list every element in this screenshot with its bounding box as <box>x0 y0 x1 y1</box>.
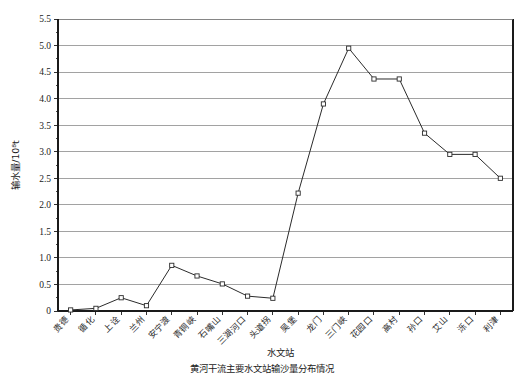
line-chart: 00.51.01.52.02.53.03.54.04.55.05.5贵德循化上诠… <box>0 0 525 374</box>
data-point-marker <box>220 282 224 286</box>
y-tick-label: 0.5 <box>39 280 51 290</box>
data-point-marker <box>372 77 376 81</box>
y-tick-label: 2.5 <box>39 174 51 184</box>
x-tick-label: 高村 <box>379 314 400 335</box>
x-tick-label: 贵德 <box>51 314 72 335</box>
data-point-marker <box>473 152 477 156</box>
y-tick-label: 1.0 <box>39 253 51 263</box>
plot-background <box>58 19 513 311</box>
x-tick-label: 青铜峡 <box>171 314 198 341</box>
y-tick-label: 1.5 <box>39 227 51 237</box>
data-point-marker <box>94 306 98 310</box>
data-point-marker <box>498 176 502 180</box>
x-tick-label: 循化 <box>76 314 97 335</box>
data-point-marker <box>347 46 351 50</box>
y-axis-title: 输水量/10⁸t <box>10 140 21 190</box>
chart-container: 00.51.01.52.02.53.03.54.04.55.05.5贵德循化上诠… <box>0 0 525 374</box>
data-point-marker <box>170 263 174 267</box>
data-point-marker <box>144 304 148 308</box>
data-point-marker <box>271 296 275 300</box>
data-point-marker <box>119 296 123 300</box>
x-tick-label: 吴堡 <box>279 314 299 334</box>
data-point-marker <box>245 294 249 298</box>
x-tick-label: 安宁渡 <box>145 314 172 341</box>
y-tick-label: 4.0 <box>39 94 51 104</box>
y-tick-label: 2.0 <box>39 200 51 210</box>
data-point-marker <box>69 308 73 312</box>
y-tick-label: 0 <box>46 306 51 316</box>
y-tick-label: 4.5 <box>39 67 51 77</box>
caption-text: 黄河干流主要水文站输沙量分布情况 <box>190 363 335 374</box>
x-tick-label: 头道拐 <box>246 314 273 341</box>
x-tick-label: 泺口 <box>455 314 476 335</box>
data-point-marker <box>448 152 452 156</box>
data-point-marker <box>296 191 300 195</box>
figure-caption-clipped: 黄河干流主要水文站输沙量分布情况 <box>0 363 525 374</box>
x-tick-label: 孙口 <box>404 314 425 335</box>
x-tick-label: 兰州 <box>126 314 147 335</box>
data-point-marker <box>397 77 401 81</box>
y-tick-label: 5.0 <box>39 41 51 51</box>
x-tick-label: 艾山 <box>430 314 450 334</box>
x-tick-label: 利津 <box>480 314 501 335</box>
y-tick-label: 5.5 <box>39 14 51 24</box>
x-tick-label: 上诠 <box>101 314 122 335</box>
x-axis-title: 水文站 <box>267 347 294 358</box>
y-tick-label: 3.5 <box>39 121 51 131</box>
data-point-marker <box>422 131 426 135</box>
y-tick-label: 3.0 <box>39 147 51 157</box>
data-point-marker <box>195 274 199 278</box>
data-point-marker <box>321 102 325 106</box>
x-tick-label: 花园口 <box>348 314 375 341</box>
x-tick-label: 龙门 <box>303 314 324 335</box>
x-tick-label: 三门峡 <box>322 314 349 341</box>
